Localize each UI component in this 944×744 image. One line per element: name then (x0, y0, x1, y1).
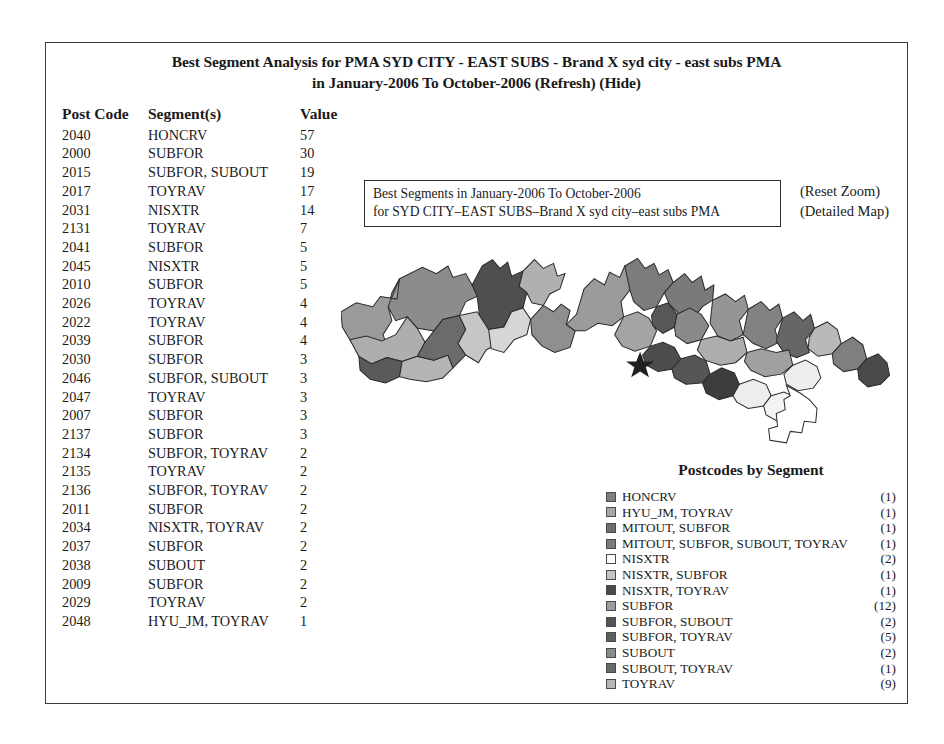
map-caption-box: Best Segments in January-2006 To October… (364, 180, 781, 227)
legend-item[interactable]: SUBOUT, TOYRAV(1) (606, 661, 896, 677)
legend-color-swatch (606, 663, 616, 673)
legend-item[interactable]: HONCRV(1) (606, 489, 896, 505)
map-svg[interactable] (341, 233, 901, 458)
legend-color-swatch (606, 570, 616, 580)
cell-post-code: 2022 (62, 313, 148, 332)
legend-item[interactable]: NISXTR, SUBFOR(1) (606, 567, 896, 583)
reset-zoom-link[interactable]: (Reset Zoom) (800, 181, 889, 201)
cell-value: 2 (300, 500, 346, 519)
legend-item-label: MITOUT, SUBFOR, SUBOUT, TOYRAV (622, 536, 881, 552)
legend-item[interactable]: HYU_JM, TOYRAV(1) (606, 505, 896, 521)
column-header-segments: Segment(s) (148, 105, 300, 126)
legend-item[interactable]: MITOUT, SUBFOR(1) (606, 520, 896, 536)
table-row: 2017TOYRAV17 (62, 182, 346, 201)
table-row: 2015SUBFOR, SUBOUT19 (62, 163, 346, 182)
cell-post-code: 2137 (62, 425, 148, 444)
legend-item[interactable]: NISXTR(2) (606, 551, 896, 567)
cell-segments: SUBFOR (148, 425, 300, 444)
cell-post-code: 2017 (62, 182, 148, 201)
table-row: 2026TOYRAV4 (62, 294, 346, 313)
cell-segments: NISXTR (148, 257, 300, 276)
cell-segments: TOYRAV (148, 313, 300, 332)
report-panel: Best Segment Analysis for PMA SYD CITY -… (45, 42, 908, 704)
map-region[interactable] (710, 294, 748, 341)
detailed-map-link[interactable]: (Detailed Map) (800, 201, 889, 221)
table-row: 2047TOYRAV3 (62, 388, 346, 407)
map-region[interactable] (625, 258, 673, 310)
cell-value: 14 (300, 201, 346, 220)
legend-item[interactable]: TOYRAV(9) (606, 676, 896, 692)
map-region[interactable] (531, 304, 576, 352)
cell-segments: TOYRAV (148, 294, 300, 313)
legend-item-count: (1) (881, 661, 896, 677)
cell-segments: SUBFOR (148, 275, 300, 294)
table-row: 2046SUBFOR, SUBOUT3 (62, 369, 346, 388)
table-row: 2022TOYRAV4 (62, 313, 346, 332)
legend-item-label: SUBOUT (622, 645, 881, 661)
legend-item[interactable]: SUBOUT(2) (606, 645, 896, 661)
cell-value: 4 (300, 331, 346, 350)
page-title: Best Segment Analysis for PMA SYD CITY -… (46, 51, 907, 93)
legend-color-swatch (606, 523, 616, 533)
cell-segments: NISXTR, TOYRAV (148, 518, 300, 537)
cell-segments: TOYRAV (148, 462, 300, 481)
map-region[interactable] (674, 308, 708, 344)
table-row: 2136SUBFOR, TOYRAV2 (62, 481, 346, 500)
cell-segments: SUBFOR (148, 406, 300, 425)
cell-value: 4 (300, 313, 346, 332)
legend-item-label: TOYRAV (622, 676, 881, 692)
cell-post-code: 2026 (62, 294, 148, 313)
table-row: 2048HYU_JM, TOYRAV1 (62, 612, 346, 631)
cell-post-code: 2040 (62, 126, 148, 145)
cell-segments: SUBFOR (148, 331, 300, 350)
cell-segments: TOYRAV (148, 182, 300, 201)
column-header-value: Value (300, 105, 346, 126)
page-title-line2: in January-2006 To October-2006 (Refresh… (46, 72, 907, 93)
map-region[interactable] (400, 355, 453, 382)
cell-value: 17 (300, 182, 346, 201)
table-row: 2037SUBFOR2 (62, 537, 346, 556)
legend-item-label: SUBOUT, TOYRAV (622, 661, 881, 677)
table-row: 2011SUBFOR2 (62, 500, 346, 519)
legend-color-swatch (606, 632, 616, 642)
table-row: 2009SUBFOR2 (62, 575, 346, 594)
legend-item-label: NISXTR (622, 551, 881, 567)
legend-item-label: HONCRV (622, 489, 881, 505)
cell-value: 5 (300, 238, 346, 257)
map-action-links: (Reset Zoom) (Detailed Map) (800, 181, 889, 221)
table-row: 2000SUBFOR30 (62, 144, 346, 163)
table-row: 2038SUBOUT2 (62, 556, 346, 575)
choropleth-map[interactable] (341, 233, 901, 458)
cell-value: 30 (300, 144, 346, 163)
cell-segments: HYU_JM, TOYRAV (148, 612, 300, 631)
legend-item[interactable]: NISXTR, TOYRAV(1) (606, 583, 896, 599)
map-caption-line1: Best Segments in January-2006 To October… (373, 185, 772, 203)
cell-value: 2 (300, 575, 346, 594)
cell-post-code: 2136 (62, 481, 148, 500)
table-header-row: Post Code Segment(s) Value (62, 105, 346, 126)
legend-item-count: (1) (881, 583, 896, 599)
table-row: 2134SUBFOR, TOYRAV2 (62, 444, 346, 463)
legend-item[interactable]: SUBFOR, TOYRAV(5) (606, 629, 896, 645)
cell-post-code: 2009 (62, 575, 148, 594)
legend-item-count: (1) (881, 536, 896, 552)
legend-item[interactable]: MITOUT, SUBFOR, SUBOUT, TOYRAV(1) (606, 536, 896, 552)
cell-value: 2 (300, 481, 346, 500)
cell-post-code: 2011 (62, 500, 148, 519)
legend-color-swatch (606, 554, 616, 564)
cell-post-code: 2037 (62, 537, 148, 556)
legend-item[interactable]: SUBFOR, SUBOUT(2) (606, 614, 896, 630)
cell-segments: TOYRAV (148, 593, 300, 612)
legend-item[interactable]: SUBFOR(12) (606, 598, 896, 614)
legend-item-count: (2) (881, 614, 896, 630)
map-region[interactable] (519, 260, 565, 306)
legend-color-swatch (606, 617, 616, 627)
map-region[interactable] (776, 312, 814, 358)
legend-item-label: SUBFOR, TOYRAV (622, 629, 881, 645)
map-region[interactable] (359, 356, 402, 383)
table-row: 2010SUBFOR5 (62, 275, 346, 294)
cell-post-code: 2007 (62, 406, 148, 425)
cell-post-code: 2031 (62, 201, 148, 220)
table-row: 2039SUBFOR4 (62, 331, 346, 350)
cell-post-code: 2039 (62, 331, 148, 350)
